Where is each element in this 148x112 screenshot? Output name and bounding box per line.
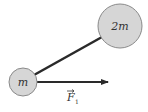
- two-mass-diagram: 2m m F 1: [0, 0, 148, 112]
- force-symbol: F: [66, 91, 75, 104]
- force-label: F 1: [66, 90, 79, 106]
- large-mass-label: 2m: [110, 20, 128, 33]
- connecting-rod: [34, 37, 102, 75]
- small-mass-label: m: [18, 76, 28, 89]
- force-subscript: 1: [75, 98, 79, 105]
